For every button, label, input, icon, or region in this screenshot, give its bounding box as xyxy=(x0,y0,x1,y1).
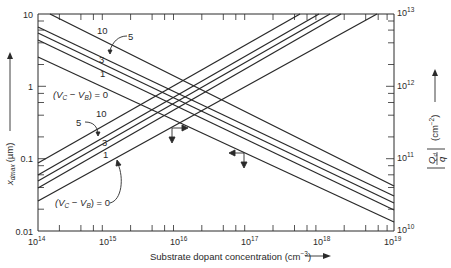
xdmax-curves xyxy=(38,14,394,222)
xtick-1e16: 1016 xyxy=(170,235,188,247)
x-axis-labels: 1014 1015 1016 1017 1018 1019 xyxy=(28,235,402,247)
y-axis-labels-right: 1013 1012 1011 1010 xyxy=(397,6,415,235)
xtick-1e15: 1015 xyxy=(99,235,117,247)
ytick-right-1e10: 1010 xyxy=(397,223,415,235)
lower-curve-labels: 10 5 3 1 (VC − VB) = 0 xyxy=(55,108,110,209)
y-axis-title-right: Qd q (cm−2) xyxy=(426,69,447,168)
xdmax-curve-1 xyxy=(38,40,394,210)
ytick-right-1e11: 1011 xyxy=(397,151,414,163)
svg-text:xdmax(µm): xdmax(µm) xyxy=(4,143,16,186)
xdmax-curve-3 xyxy=(38,33,394,203)
label-1-falling: 1 xyxy=(100,68,105,79)
label-5-falling: 5 xyxy=(128,31,133,42)
label-10-rising: 10 xyxy=(96,108,107,119)
y-axis-labels-left: 10 1 0.1 0.01 xyxy=(15,10,33,237)
svg-text:q: q xyxy=(436,156,447,162)
y-axis-title-left: xdmax(µm) xyxy=(4,52,16,186)
xtick-1e19: 1019 xyxy=(384,235,402,247)
ytick-right-1e13: 1013 xyxy=(397,6,415,18)
label-1-rising: 1 xyxy=(103,149,108,160)
svg-text:(cm−2): (cm−2) xyxy=(428,115,440,141)
upper-curve-labels: 10 5 3 1 (VC − VB) = 0 xyxy=(53,25,133,101)
label-3-rising: 3 xyxy=(102,137,107,148)
ytick-right-1e12: 1012 xyxy=(397,79,415,91)
axis-indicator-arrows xyxy=(169,125,247,168)
label-0-rising: (VC − VB) = 0 xyxy=(55,197,110,209)
chart: 10 5 3 1 (VC − VB) = 0 10 5 3 1 (VC − VB… xyxy=(0,0,451,268)
label-leaders xyxy=(85,36,127,203)
ytick-0.1: 0.1 xyxy=(20,154,33,164)
xtick-1e14: 1014 xyxy=(28,235,46,247)
xtick-1e18: 1018 xyxy=(313,235,331,247)
label-10-falling: 10 xyxy=(97,25,108,36)
y-axis-ticks-right xyxy=(386,21,394,209)
ytick-10: 10 xyxy=(23,10,33,20)
ytick-1: 1 xyxy=(28,82,33,92)
xdmax-curve-5 xyxy=(38,27,394,196)
qd-curve-0 xyxy=(38,14,377,201)
x-axis-title: Substrate dopant concentration (cm−3) xyxy=(150,250,331,262)
qd-curves xyxy=(38,14,377,201)
qd-curve-1 xyxy=(38,14,341,188)
x-axis-ticks-top xyxy=(59,14,387,20)
svg-text:Substrate dopant concentration: Substrate dopant concentration (cm−3) xyxy=(150,250,311,262)
xtick-1e17: 1017 xyxy=(241,235,259,247)
label-3-falling: 3 xyxy=(99,54,104,65)
label-5-rising: 5 xyxy=(76,117,81,128)
ytick-0.01: 0.01 xyxy=(15,227,33,237)
label-0-falling: (VC − VB) = 0 xyxy=(53,89,108,101)
x-axis-ticks-bottom xyxy=(59,225,387,231)
